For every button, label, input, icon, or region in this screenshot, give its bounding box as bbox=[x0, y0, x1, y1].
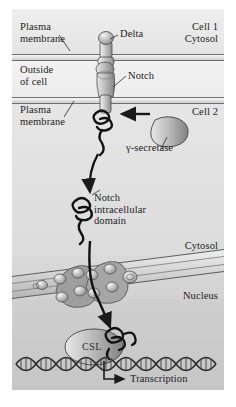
notch-intracellular-domain-coil-membrane bbox=[94, 111, 112, 156]
label-plasma-membrane-top: Plasma membrane bbox=[20, 21, 65, 44]
label-cell-1: Cell 1Cytosol bbox=[185, 21, 218, 44]
label-outside-of-cell: Outside of cell bbox=[20, 64, 53, 87]
nicd-release-arrow bbox=[90, 154, 98, 192]
label-delta: Delta bbox=[120, 28, 143, 40]
label-csl: CSL bbox=[82, 341, 102, 353]
label-transcription: Transcription bbox=[130, 373, 188, 385]
label-gamma-secretase: γ-secretase bbox=[126, 142, 173, 154]
delta-ligand bbox=[98, 32, 114, 67]
diagram-panel: Plasma membrane Outside of cell Plasma m… bbox=[12, 9, 224, 390]
label-cytosol-bottom: Cytosol bbox=[185, 240, 218, 252]
label-cytosol-top: Cytosol bbox=[185, 33, 218, 44]
notch-receptor bbox=[96, 62, 115, 113]
label-cell-2: Cell 2 bbox=[192, 106, 218, 118]
label-plasma-membrane-bottom: Plasma membrane bbox=[20, 104, 65, 127]
plasma-membrane-bottom-leader bbox=[64, 101, 74, 117]
label-cell-1-text: Cell 1 bbox=[192, 21, 218, 32]
label-nucleus: Nucleus bbox=[183, 290, 218, 302]
label-notch-intracellular-domain: Notch intracellular domain bbox=[94, 192, 146, 227]
label-notch: Notch bbox=[128, 70, 154, 82]
notch-intracellular-domain-coil-free bbox=[73, 198, 92, 244]
notch-signaling-figure: Plasma membrane Outside of cell Plasma m… bbox=[0, 0, 236, 407]
